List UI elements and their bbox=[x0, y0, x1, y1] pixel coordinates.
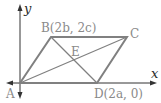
x-axis-right-arrow-icon bbox=[150, 81, 157, 86]
y-axis-label: y bbox=[23, 1, 32, 16]
x-axis-left-arrow-icon bbox=[6, 81, 13, 86]
y-axis-down-arrow-icon bbox=[18, 92, 23, 99]
diagonal-bd bbox=[51, 37, 97, 83]
point-c-label: C bbox=[130, 27, 139, 41]
parallelogram-diagram: y x A B(2b, 2c) C D(2a, 0) E bbox=[0, 0, 161, 103]
point-d-label: D(2a, 0) bbox=[94, 87, 143, 101]
point-e-label: E bbox=[71, 45, 80, 59]
y-axis-up-arrow-icon bbox=[18, 4, 23, 11]
point-b-label: B(2b, 2c) bbox=[41, 21, 96, 35]
point-a-label: A bbox=[5, 87, 15, 101]
x-axis-label: x bbox=[151, 66, 159, 81]
y-axis bbox=[18, 4, 23, 99]
